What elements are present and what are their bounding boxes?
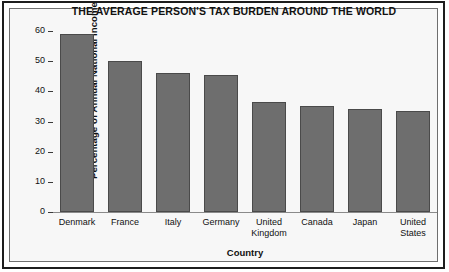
y-axis-tick	[48, 31, 53, 32]
x-axis-tick-label: Denmark	[53, 217, 101, 228]
chart-figure: THE AVERAGE PERSON'S TAX BURDEN AROUND T…	[0, 0, 449, 272]
y-axis-tick	[48, 182, 53, 183]
y-axis-tick-label: 60	[23, 25, 45, 35]
y-axis-tick-label: 10	[23, 176, 45, 186]
y-axis-tick	[48, 91, 53, 92]
y-axis-tick-label: 0	[23, 206, 45, 216]
y-axis-tick	[48, 122, 53, 123]
y-axis-tick-label: 30	[23, 116, 45, 126]
x-axis-tick-label: Canada	[293, 217, 341, 228]
bar	[204, 75, 238, 212]
x-axis-tick-label: United Kingdom	[245, 217, 293, 239]
bar	[108, 61, 142, 212]
x-axis-tick-label: France	[101, 217, 149, 228]
y-axis-tick	[48, 152, 53, 153]
bar	[396, 111, 430, 212]
x-axis-tick-label: Italy	[149, 217, 197, 228]
bar	[348, 109, 382, 212]
y-axis-tick-label: 50	[23, 55, 45, 65]
bar	[156, 73, 190, 212]
y-axis-tick-label: 20	[23, 146, 45, 156]
y-axis-tick	[48, 212, 53, 213]
y-axis-tick-label: 40	[23, 85, 45, 95]
bar	[300, 106, 334, 212]
plot-area: Percentage of Annual National Income 010…	[53, 31, 437, 212]
x-axis-tick-label: Japan	[341, 217, 389, 228]
bar	[252, 102, 286, 212]
x-axis-tick-label: Germany	[197, 217, 245, 228]
y-axis-tick	[48, 61, 53, 62]
x-axis-title: Country	[53, 247, 437, 258]
bar	[60, 34, 94, 212]
x-axis-tick-label: United States	[389, 217, 437, 239]
x-axis-baseline	[53, 212, 437, 213]
